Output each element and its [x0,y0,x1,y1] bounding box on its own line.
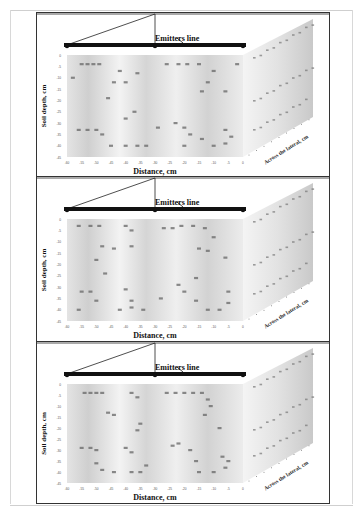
x-tick-label: -5 [227,487,230,491]
contour-label [171,445,175,447]
contour-label [194,277,198,279]
side-contour-label [286,247,289,249]
z-tick-mark [309,119,310,120]
z-tick-mark [286,297,287,298]
side-contour-label [279,114,282,116]
side-contour-label [273,254,276,256]
x-tick-label: -10 [211,161,216,165]
contour-label [124,225,128,227]
x-tick-label: -30 [153,325,158,329]
contour-label [159,297,163,299]
side-contour-label [266,447,269,449]
contour-label [100,469,104,471]
z-tick-mark [279,137,280,138]
contour-label [124,117,128,119]
side-contour-label [260,127,263,129]
plot-front-face [67,219,243,321]
side-contour-label [279,440,282,442]
plot-front-face [67,55,243,157]
side-contour-label [279,278,282,280]
side-contour-label [292,198,295,200]
side-contour-label [273,283,276,285]
contour-label [206,398,210,400]
table-border-left [10,10,11,504]
emitter-marker [241,373,245,377]
contour-label [135,429,139,431]
contour-label [206,309,210,311]
y-tick-label: -35 [56,297,61,301]
contour-label [130,392,134,394]
contour-label [112,414,116,416]
side-contour-label [286,412,289,414]
side-contour-label [292,106,295,108]
x-tick-label: -60 [65,487,70,491]
contour-label [212,145,216,147]
side-contour-label [299,75,302,77]
contour-label [141,309,145,311]
contour-label [182,392,186,394]
x-axis-label: Distance, cm [133,331,177,340]
side-contour-label [279,249,282,251]
contour-label [138,423,142,425]
y-tick-label: -25 [56,274,61,278]
x-tick-label: -20 [182,161,187,165]
emitter-marker [65,373,69,377]
contour-label [77,225,81,227]
side-contour-label [286,369,289,371]
x-tick-label: 0 [242,325,244,329]
x-tick-label: -50 [94,161,99,165]
side-contour-label [260,262,263,264]
side-contour-label [279,42,282,44]
side-contour-label [299,196,302,198]
side-contour-label [273,90,276,92]
contour-label [80,63,84,65]
contour-label [100,133,104,135]
z-tick-mark [264,472,265,473]
contour-label [194,460,198,462]
z-tick-mark [286,459,287,460]
contour-label [162,227,166,229]
contour-label [179,225,183,227]
y-tick-label: -20 [56,427,61,431]
contour-label [118,70,122,72]
contour-label [218,309,222,311]
x-tick-label: -40 [123,161,128,165]
side-contour-label [266,285,269,287]
side-contour-label [279,85,282,87]
emitter-marker [153,44,157,48]
y-tick-label: 0 [59,54,61,58]
x-tick-label: -35 [138,487,143,491]
contour-label [118,309,122,311]
side-contour-label [260,98,263,100]
contour-label [220,456,224,458]
side-contour-label [305,70,308,72]
side-contour-label [253,455,256,457]
side-contour-label [286,204,289,206]
contour-label [223,129,227,131]
side-contour-label [312,396,315,398]
z-tick-mark [256,476,257,477]
contour-label [212,471,216,473]
contour-label [130,245,134,247]
y-tick-label: -5 [58,65,61,69]
y-tick-label: 0 [59,383,61,387]
z-tick-mark [294,454,295,455]
z-tick-mark [279,463,280,464]
z-tick-mark [309,445,310,446]
x-tick-label: -15 [197,487,202,491]
side-contour-label [286,276,289,278]
contour-label [124,81,128,83]
contour-label [176,284,180,286]
z-tick-mark [301,124,302,125]
side-contour-label [273,419,276,421]
side-contour-label [273,211,276,213]
x-tick-label: -20 [182,325,187,329]
contour-label [223,142,227,144]
x-tick-label: -10 [211,325,216,329]
y-tick-label: -45 [56,156,61,160]
side-contour-label [292,77,295,79]
side-contour-label [299,430,302,432]
contour-label [200,392,204,394]
y-tick-label: -20 [56,99,61,103]
side-contour-label [260,291,263,293]
